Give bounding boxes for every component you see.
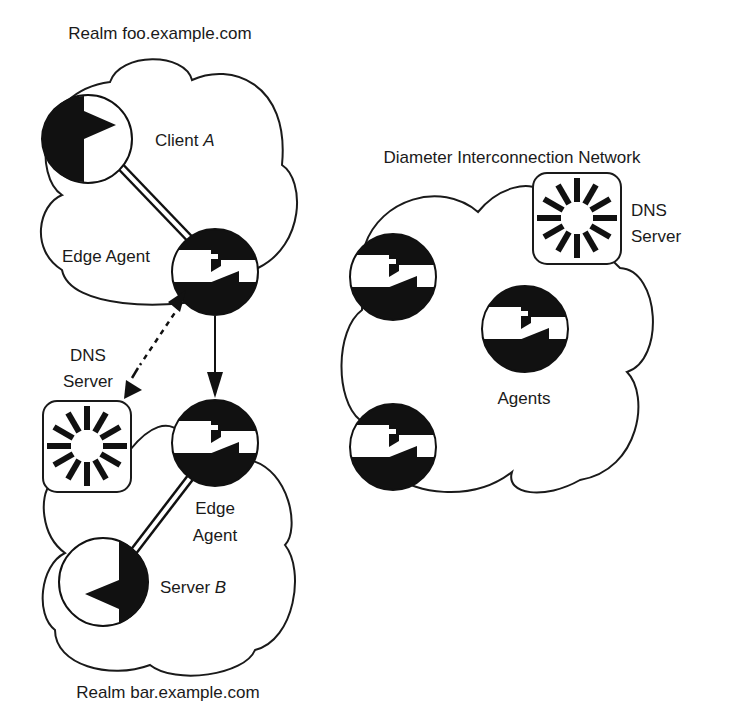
dns-server-interconnection-label-line2: Server bbox=[631, 227, 681, 246]
agent-2-icon bbox=[349, 404, 437, 490]
edge-agent-bar-label-line1: Edge bbox=[195, 499, 235, 518]
dns-server-interconnection-icon bbox=[533, 173, 621, 264]
dns-server-bar-icon bbox=[43, 401, 131, 492]
agent-1-icon bbox=[349, 234, 437, 320]
client-a-icon bbox=[41, 95, 132, 183]
edge-agent-bar-icon bbox=[171, 400, 259, 486]
agents-label: Agents bbox=[498, 389, 551, 408]
arrow-edge-foo-dns-bar bbox=[124, 290, 186, 399]
arrow-edge-foo-to-edge-bar bbox=[207, 316, 223, 398]
client-a-label: Client A bbox=[155, 131, 215, 150]
server-b-icon bbox=[59, 538, 149, 626]
diameter-network-diagram: Realm foo.example.com Client A Edge Agen… bbox=[0, 0, 729, 710]
server-b-label: Server B bbox=[160, 578, 226, 597]
realm-bar-title: Realm bar.example.com bbox=[76, 683, 259, 702]
dns-server-interconnection-label-line1: DNS bbox=[631, 201, 667, 220]
realm-foo-title: Realm foo.example.com bbox=[68, 24, 251, 43]
edge-agent-foo-icon bbox=[171, 229, 259, 315]
interconnection-title: Diameter Interconnection Network bbox=[383, 148, 641, 167]
dns-server-bar-label-line2: Server bbox=[63, 372, 113, 391]
edge-agent-bar-label-line2: Agent bbox=[193, 526, 238, 545]
dns-server-bar-label-line1: DNS bbox=[70, 346, 106, 365]
agent-3-icon bbox=[481, 286, 569, 372]
edge-agent-foo-label: Edge Agent bbox=[62, 247, 150, 266]
